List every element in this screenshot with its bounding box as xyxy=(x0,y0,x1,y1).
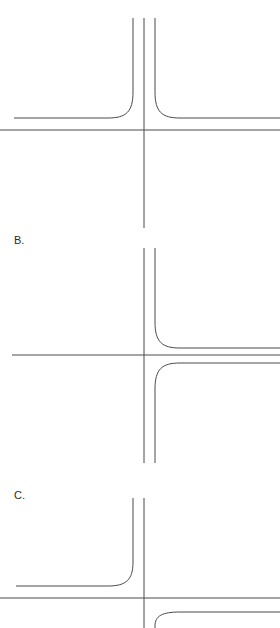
panel-c: C. xyxy=(0,489,280,628)
figure-root: B. C. xyxy=(0,0,280,628)
panel-c-lower-right-edge-curving-right xyxy=(155,612,280,628)
panel-a-vertical-left-edge-curving-left xyxy=(14,18,133,118)
panel-a-vertical-right-edge-curving-right xyxy=(155,18,280,118)
panel-b-label: B. xyxy=(14,234,24,246)
panel-b-vertical-right-edge-lower-curving-right xyxy=(155,363,280,463)
intersection-diagram-canvas: B. C. xyxy=(0,0,280,628)
panel-c-vertical-left-edge-curving-left xyxy=(16,498,133,586)
panel-b: B. xyxy=(12,234,280,463)
panel-c-label: C. xyxy=(14,489,25,501)
panel-b-vertical-right-edge-upper-curving-right xyxy=(155,248,280,348)
panel-a xyxy=(0,18,280,228)
